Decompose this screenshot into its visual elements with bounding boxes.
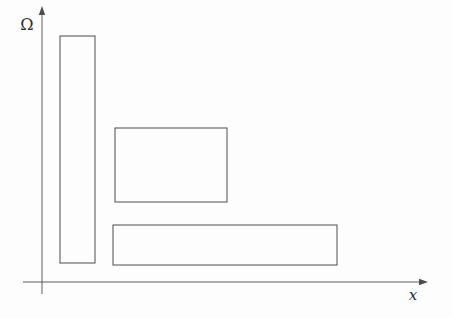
x-axis-arrowhead-icon <box>419 279 428 285</box>
middle-rectangle <box>115 128 227 202</box>
x-axis-label: x <box>409 286 418 304</box>
figure: Ωx <box>0 0 452 318</box>
wide-bottom-rectangle <box>113 225 337 265</box>
tall-vertical-rectangle <box>60 36 95 263</box>
y-axis-arrowhead-icon <box>39 6 45 15</box>
diagram-canvas: Ωx <box>0 0 452 318</box>
axes-group <box>23 6 428 294</box>
rectangles-group <box>60 36 337 265</box>
labels-group: Ωx <box>20 15 417 304</box>
y-axis-label: Ω <box>20 15 33 34</box>
